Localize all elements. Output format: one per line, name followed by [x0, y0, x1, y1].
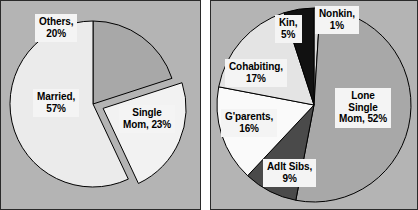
slice-label-others: Others,20% — [35, 14, 77, 42]
slice-label-nonkin: Nonkin,1% — [315, 6, 359, 34]
slice-label-line: 5% — [279, 29, 298, 41]
slice-label-line: Single — [339, 102, 387, 114]
slice-label-line: G'parents, — [225, 111, 273, 123]
slice-label-line: 16% — [225, 123, 273, 135]
slice-label-line: Mom, 23% — [123, 119, 171, 131]
slice-label-line: Married, — [37, 91, 75, 103]
slice-label-lone-single-mom: LoneSingleMom, 52% — [335, 88, 391, 128]
slice-label-line: Others, — [39, 16, 73, 28]
slice-label-line: Cohabiting, — [229, 61, 283, 73]
slice-label-adlt-sibs: Adlt Sibs,9% — [263, 159, 316, 187]
slice-label-kin: Kin,5% — [275, 15, 302, 43]
slice-label-married: Married,57% — [33, 89, 79, 117]
slice-label-line: Nonkin, — [319, 8, 355, 20]
left-chart-panel: Others,20% Married,57% SingleMom, 23% — [0, 0, 201, 210]
slice-label-single-mom: SingleMom, 23% — [119, 105, 175, 133]
slice-label-gparents: G'parents,16% — [221, 109, 277, 137]
panel-divider — [201, 0, 210, 210]
slice-label-line: Mom, 52% — [339, 113, 387, 125]
slice-label-line: 20% — [39, 28, 73, 40]
right-chart-panel: Nonkin,1% Kin,5% Cohabiting,17% G'parent… — [210, 0, 418, 210]
slice-label-line: Single — [123, 107, 171, 119]
slice-label-line: Lone — [339, 90, 387, 102]
slice-label-line: 57% — [37, 103, 75, 115]
slice-label-line: 9% — [267, 173, 312, 185]
slice-label-line: 1% — [319, 20, 355, 32]
slice-label-line: Kin, — [279, 17, 298, 29]
pie-chart-figure: Others,20% Married,57% SingleMom, 23% No… — [0, 0, 418, 210]
slice-label-line: Adlt Sibs, — [267, 161, 312, 173]
slice-label-line: 17% — [229, 73, 283, 85]
slice-label-cohabiting: Cohabiting,17% — [225, 59, 287, 87]
